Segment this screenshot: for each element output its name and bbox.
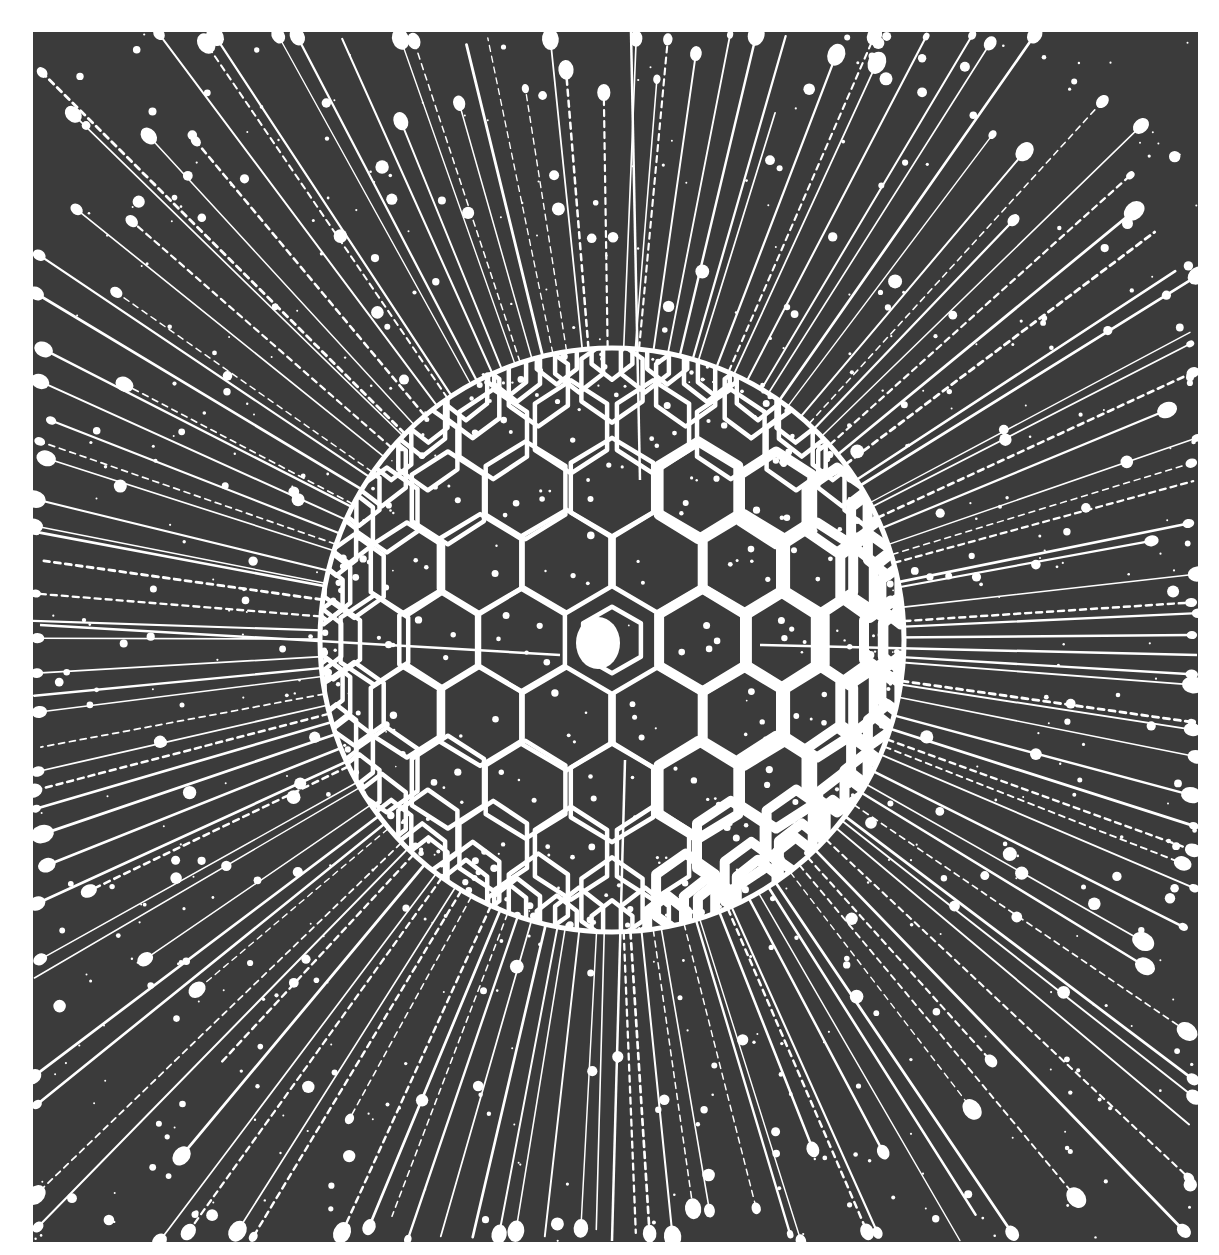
central-nucleus — [576, 617, 620, 669]
radiolarian-illustration — [0, 0, 1219, 1255]
